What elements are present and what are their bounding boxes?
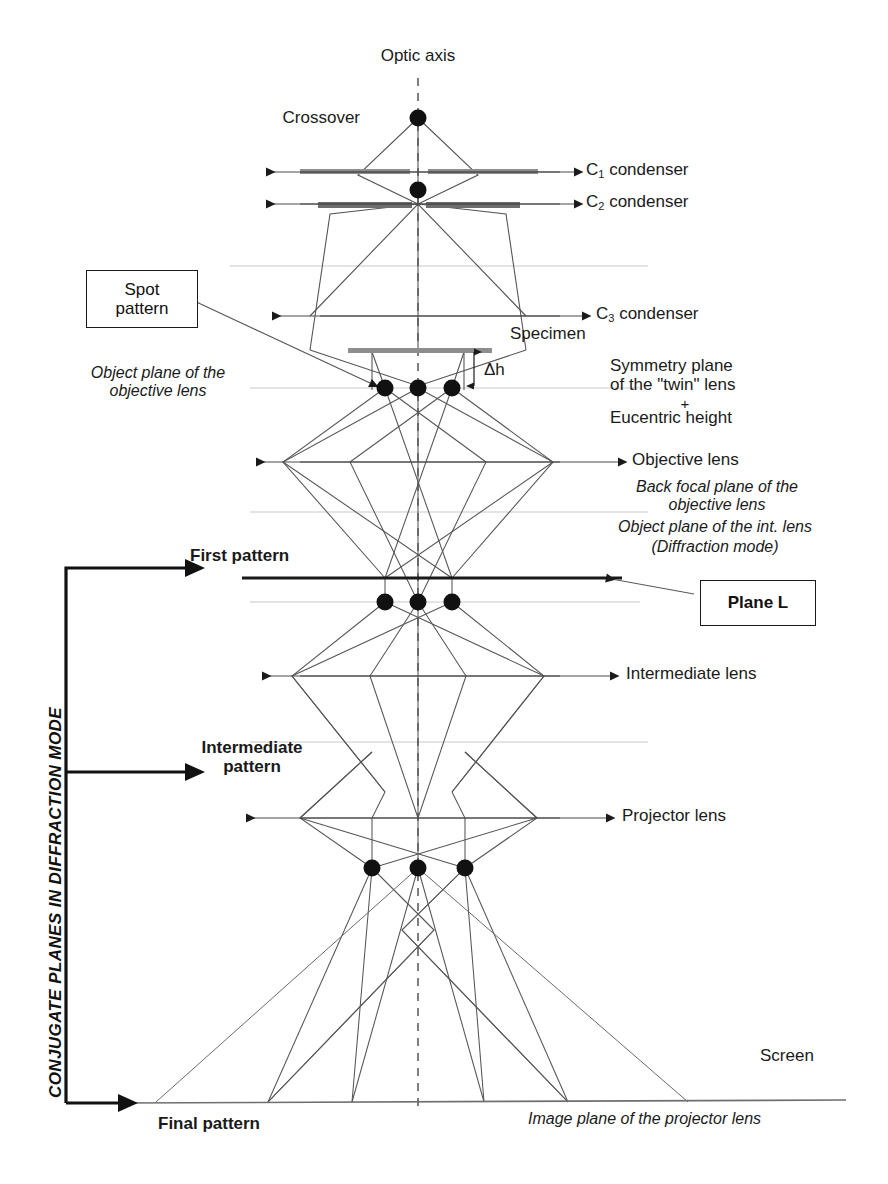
object-plane-point-left xyxy=(377,380,394,397)
c2-lens-bar-right xyxy=(426,202,520,208)
c2-condenser-label: C2 condenser xyxy=(586,192,689,212)
intermediate-pattern-label: Intermediate pattern xyxy=(172,738,332,776)
eucentric-height-label: Eucentric height xyxy=(610,408,732,427)
first-pattern-label: First pattern xyxy=(190,546,289,565)
diffraction-mode-label: (Diffraction mode) xyxy=(560,538,870,556)
symmetry-plane-label: Symmetry plane of the "twin" lens xyxy=(610,356,735,394)
spot-pattern-box[interactable]: Spot pattern xyxy=(86,270,198,328)
final-pattern-label: Final pattern xyxy=(158,1114,260,1133)
intermediate-point-right xyxy=(444,594,461,611)
image-plane-projector-label: Image plane of the projector lens xyxy=(528,1110,761,1128)
object-plane-point-center xyxy=(410,380,427,397)
specimen-label: Specimen xyxy=(510,324,586,343)
back-focal-plane-label: Back focal plane of the objective lens xyxy=(572,478,862,514)
projector-point-left xyxy=(364,860,381,877)
conjugate-bracket xyxy=(66,568,185,1103)
plane-l-leader xyxy=(606,578,694,594)
diagram-canvas: Optic axis Crossover C1 condenser C2 con… xyxy=(0,0,888,1184)
objective-lens-label: Objective lens xyxy=(632,450,739,469)
plane-l-line xyxy=(242,578,694,594)
intermediate-ray-bundle xyxy=(292,602,544,868)
c3-condenser-label: C3 condenser xyxy=(596,304,699,324)
bottom-wide-cone xyxy=(156,868,688,1102)
spot-pattern-box-label: Spot pattern xyxy=(116,280,169,318)
lens-axis-arrows xyxy=(246,172,618,818)
crossover-point xyxy=(410,110,427,127)
crossover-label: Crossover xyxy=(200,108,360,127)
c1-focus-point xyxy=(410,182,427,199)
projector-point-center xyxy=(410,860,427,877)
delta-h-label: Δh xyxy=(484,360,505,379)
object-plane-point-right xyxy=(444,380,461,397)
intermediate-point-left xyxy=(377,594,394,611)
c2-lens-bar-left xyxy=(318,202,412,208)
projector-point-right xyxy=(457,860,474,877)
object-plane-int-lens-label: Object plane of the int. lens xyxy=(560,518,870,536)
conjugate-planes-vertical-label: CONJUGATE PLANES IN DIFFRACTION MODE xyxy=(46,707,66,1098)
specimen-bar xyxy=(348,348,492,353)
condenser-ray-bundle xyxy=(310,118,526,386)
intermediate-point-center xyxy=(410,594,427,611)
screen-label: Screen xyxy=(760,1046,814,1065)
intermediate-lens-label: Intermediate lens xyxy=(626,664,756,683)
object-plane-objective-label: Object plane of the objective lens xyxy=(28,364,288,400)
screen-line xyxy=(118,1100,846,1103)
projector-lens-label: Projector lens xyxy=(622,806,726,825)
optic-axis-label: Optic axis xyxy=(338,46,498,65)
plane-l-box-label: Plane L xyxy=(728,593,788,612)
c1-condenser-label: C1 condenser xyxy=(586,160,689,180)
plane-l-box[interactable]: Plane L xyxy=(700,580,816,626)
objective-ray-bundle xyxy=(283,388,553,602)
